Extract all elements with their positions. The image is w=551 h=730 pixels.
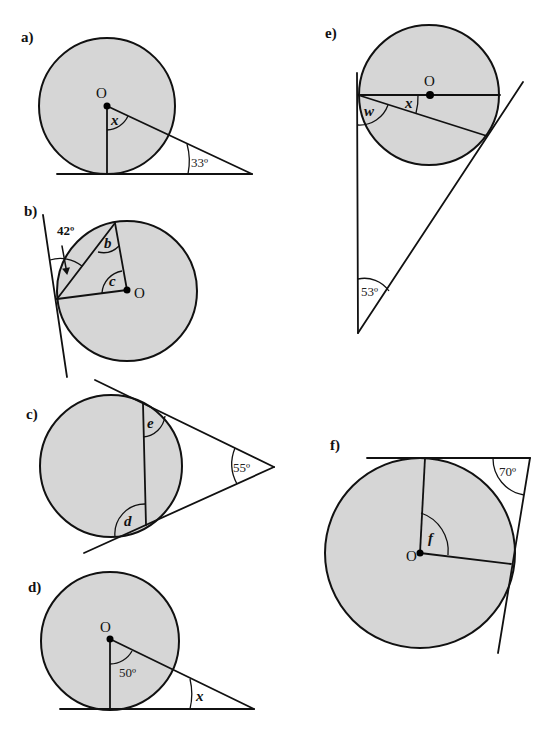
center-point-e [426, 91, 434, 99]
diagram-e: e) O w x 53º [325, 25, 523, 333]
part-label-f: f) [330, 437, 340, 454]
unknown-label-x-a: x [110, 112, 119, 128]
angle-label-53: 53º [361, 284, 378, 299]
angle-arc-33-a [187, 144, 189, 174]
center-label-e: O [424, 73, 435, 89]
center-point-f [417, 550, 424, 557]
unknown-label-e: e [147, 415, 154, 431]
unknown-label-x-e: x [404, 95, 413, 111]
diagram-f: f) O f 70º [325, 437, 530, 653]
center-label-b: O [134, 285, 145, 301]
center-label-f: O [406, 548, 417, 564]
angle-label-70: 70º [499, 464, 516, 479]
unknown-label-c: c [109, 273, 116, 289]
unknown-label-b: b [104, 235, 112, 251]
tangent-vertical-e [357, 73, 358, 333]
angle-label-55: 55º [233, 460, 250, 475]
unknown-label-w: w [364, 103, 375, 119]
part-label-b: b) [24, 203, 37, 220]
diagram-b: b) O 42º b c [24, 203, 197, 377]
part-label-e: e) [325, 25, 337, 42]
circle-c [40, 395, 182, 537]
diagram-c: c) e d 55º [26, 380, 274, 553]
unknown-label-d: d [124, 513, 132, 529]
part-label-c: c) [26, 406, 38, 423]
diagram-a: a) O x 33º [21, 29, 252, 174]
angle-label-33: 33º [191, 155, 208, 170]
center-label-a: O [96, 85, 107, 101]
center-label-d: O [100, 619, 111, 635]
unknown-label-x-d: x [195, 688, 204, 704]
angle-label-42: 42º [57, 223, 74, 238]
center-point-d [107, 636, 114, 643]
part-label-d: d) [28, 579, 41, 596]
part-label-a: a) [21, 29, 34, 46]
angle-label-50: 50º [119, 665, 136, 680]
angle-arc-x-d [190, 679, 192, 709]
diagram-canvas: a) O x 33º b) O 42º b c c) [0, 0, 551, 730]
diagram-d: d) O 50º x [28, 572, 254, 710]
center-point-b [124, 287, 131, 294]
center-point-a [104, 103, 111, 110]
